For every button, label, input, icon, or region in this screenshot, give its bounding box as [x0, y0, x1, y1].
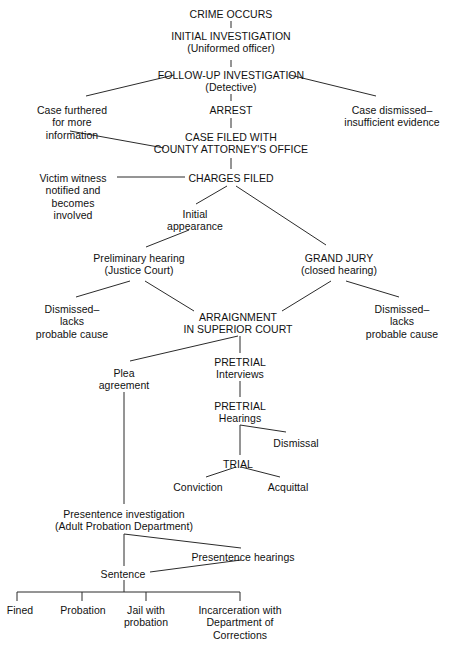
flow-edge: [282, 281, 331, 311]
flow-node-fined: Fined: [7, 604, 34, 616]
flow-node-plea_agreement: Plea agreement: [99, 367, 150, 392]
flow-node-charges_filed: CHARGES FILED: [188, 172, 273, 184]
flow-edge: [236, 186, 326, 245]
flow-node-pretrial_hearings: PRETRIAL Hearings: [214, 400, 266, 425]
flow-node-preliminary_hearing: Preliminary hearing (Justice Court): [93, 252, 184, 277]
flow-edge: [196, 186, 227, 204]
flow-node-case_dismissed: Case dismissed– insufficient evidence: [344, 104, 439, 129]
flow-node-incarceration: Incarceration with Department of Correct…: [198, 604, 281, 641]
flow-node-dismissal: Dismissal: [273, 437, 318, 449]
flow-node-presentence_hearings: Presentence hearings: [191, 551, 294, 563]
flow-node-arraignment: ARRAIGNMENT IN SUPERIOR COURT: [183, 311, 292, 336]
flow-node-pretrial_interviews: PRETRIAL Interviews: [214, 356, 266, 381]
flow-node-presentence_invest: Presentence investigation (Adult Probati…: [55, 508, 193, 533]
flow-node-dismissed_left: Dismissed– lacks probable cause: [36, 303, 109, 340]
flow-node-grand_jury: GRAND JURY (closed hearing): [301, 252, 377, 277]
flow-node-sentence: Sentence: [101, 568, 146, 580]
flow-node-victim_witness: Victim witness notified and becomes invo…: [39, 172, 106, 222]
flow-edge: [76, 281, 130, 297]
flow-node-conviction: Conviction: [173, 481, 223, 493]
flow-node-follow_up: FOLLOW-UP INVESTIGATION (Detective): [158, 69, 304, 94]
flow-node-crime_occurs: CRIME OCCURS: [190, 8, 273, 20]
flow-node-dismissed_right: Dismissed– lacks probable cause: [366, 303, 439, 340]
flow-edge: [346, 281, 399, 297]
flow-edge: [124, 534, 241, 548]
flow-node-trial: TRIAL: [223, 458, 253, 470]
flowchart-canvas: CRIME OCCURSINITIAL INVESTIGATION (Unifo…: [0, 0, 457, 654]
flow-node-case_filed: CASE FILED WITH COUNTY ATTORNEY'S OFFICE: [154, 131, 308, 156]
flow-node-acquittal: Acquittal: [268, 481, 309, 493]
flow-node-arrest: ARREST: [210, 104, 253, 116]
flow-node-initial_investigation: INITIAL INVESTIGATION (Uniformed officer…: [171, 30, 290, 55]
flow-edge: [145, 281, 194, 311]
flow-node-probation: Probation: [60, 604, 105, 616]
flow-node-case_furthered: Case furthered for more information: [37, 104, 107, 141]
flow-edge: [240, 425, 286, 432]
flow-node-jail_with_probation: Jail with probation: [124, 604, 168, 629]
flow-node-initial_appearance: Initial appearance: [167, 208, 223, 233]
